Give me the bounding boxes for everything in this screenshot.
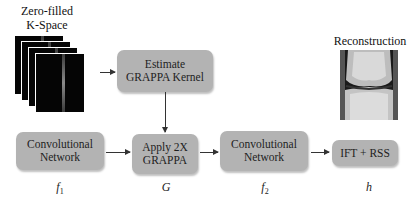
knee-mri-graphic (340, 50, 398, 120)
f1-sub: 1 (60, 187, 64, 196)
arrow-kspace-to-estimate (100, 72, 115, 73)
symbol-g: G (151, 180, 181, 195)
conv1-line2: Network (27, 151, 93, 164)
kspace-title-line2: K-Space (12, 18, 82, 32)
reconstruction-title: Reconstruction (330, 34, 410, 48)
conv-network-2-box: Convolutional Network (220, 131, 308, 171)
kspace-title: Zero-filled K-Space (12, 4, 82, 32)
arrow-apply-to-conv2 (200, 152, 218, 153)
arrow-conv1-to-apply (106, 152, 130, 153)
kspace-stack-image (14, 35, 94, 120)
conv1-line1: Convolutional (27, 138, 93, 151)
kspace-slice (35, 53, 85, 113)
kspace-title-line1: Zero-filled (12, 4, 82, 18)
f2-sub: 2 (265, 187, 269, 196)
conv2-line1: Convolutional (231, 138, 297, 151)
symbol-f1: f1 (45, 180, 75, 196)
apply-grappa-box: Apply 2X GRAPPA (132, 134, 198, 174)
symbol-f2: f2 (250, 180, 280, 196)
arrow-estimate-to-apply (165, 92, 166, 132)
apply-line2: GRAPPA (142, 154, 188, 167)
estimate-grappa-kernel-box: Estimate GRAPPA Kernel (117, 50, 213, 92)
symbol-h: h (354, 180, 384, 195)
conv-network-1-box: Convolutional Network (16, 132, 104, 170)
conv2-line2: Network (231, 151, 297, 164)
reconstruction-knee-image (340, 50, 398, 120)
ift-rss-box: IFT + RSS (332, 140, 398, 166)
ift-label: IFT + RSS (340, 147, 390, 160)
apply-line1: Apply 2X (142, 141, 188, 154)
estimate-line2: GRAPPA Kernel (126, 71, 204, 84)
estimate-line1: Estimate (126, 58, 204, 71)
arrow-conv2-to-ift (311, 152, 329, 153)
